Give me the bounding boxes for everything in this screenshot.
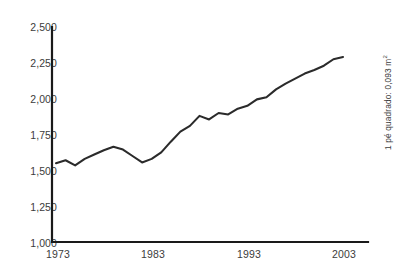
unit-conversion-text: 1 pé quadrado: 0,093 m <box>383 59 393 150</box>
plot-area <box>0 0 406 277</box>
square-meter-superscript: 2 <box>382 55 388 59</box>
line-chart-figure: 2,500 2,250 2,000 1,750 1,500 1,250 1,00… <box>0 0 406 277</box>
unit-conversion-note: 1 pé quadrado: 0,093 m2 <box>382 18 393 150</box>
axis-lines <box>52 27 368 242</box>
data-series-line <box>56 57 343 165</box>
